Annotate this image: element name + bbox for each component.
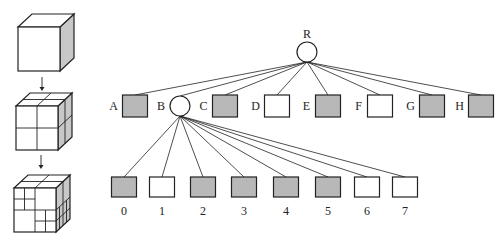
node-label: A	[109, 99, 118, 113]
leaf-label: 7	[402, 204, 408, 218]
octree-diagram: RABCDEFGH01234567	[0, 0, 501, 240]
edge-B-2	[180, 116, 203, 177]
leaf-3: 3	[232, 177, 257, 218]
leaf-label: 3	[241, 204, 247, 218]
filled-leaf-box	[274, 177, 299, 197]
cube-front-face	[18, 27, 60, 71]
edge-B-7	[180, 116, 405, 177]
cube-level-2	[14, 175, 70, 232]
leaf-5: 5	[316, 177, 341, 218]
leaf-label: 6	[364, 204, 370, 218]
filled-leaf-box	[316, 177, 341, 197]
leaf-6: 6	[355, 177, 380, 218]
filled-leaf-box	[123, 95, 148, 117]
arrow-head	[39, 165, 44, 169]
node-D: D	[251, 95, 289, 117]
internal-node-circle	[170, 96, 190, 116]
root-label: R	[303, 27, 311, 41]
node-label: B	[157, 99, 165, 113]
root-circle	[297, 42, 317, 62]
node-label: E	[303, 99, 310, 113]
leaf-2: 2	[191, 177, 216, 218]
leaf-0: 0	[112, 177, 137, 218]
cube-illustrations	[14, 14, 74, 232]
filled-leaf-box	[316, 95, 341, 117]
edge-B-0	[124, 116, 180, 177]
filled-leaf-box	[232, 177, 257, 197]
tree-nodes: RABCDEFGH01234567	[109, 27, 493, 218]
leaf-label: 0	[121, 204, 127, 218]
node-label: G	[406, 99, 415, 113]
edge-R-H	[307, 62, 481, 95]
empty-leaf-box	[355, 177, 380, 197]
edge-B-5	[180, 116, 328, 177]
edge-R-B	[180, 62, 307, 96]
node-label: D	[251, 99, 260, 113]
node-label: H	[455, 99, 464, 113]
root-node: R	[297, 27, 317, 62]
node-F: F	[355, 95, 392, 117]
filled-leaf-box	[469, 95, 494, 117]
edge-B-6	[180, 116, 367, 177]
edge-R-C	[225, 62, 307, 95]
cube-level-0	[18, 14, 74, 71]
edge-B-1	[162, 116, 180, 177]
edge-B-3	[180, 116, 244, 177]
leaf-7: 7	[393, 177, 418, 218]
empty-leaf-box	[150, 177, 175, 197]
leaf-1: 1	[150, 177, 175, 218]
leaf-label: 1	[159, 204, 165, 218]
node-E: E	[303, 95, 341, 117]
down-arrow-icon	[39, 155, 44, 169]
leaf-label: 5	[325, 204, 331, 218]
empty-leaf-box	[393, 177, 418, 197]
empty-leaf-box	[265, 95, 290, 117]
filled-leaf-box	[191, 177, 216, 197]
node-G: G	[406, 95, 444, 117]
node-H: H	[455, 95, 493, 117]
edge-B-4	[180, 116, 286, 177]
tree-edges	[124, 62, 481, 177]
leaf-label: 4	[283, 204, 289, 218]
arrow-head	[40, 87, 45, 91]
filled-leaf-box	[213, 95, 238, 117]
node-label: C	[199, 99, 207, 113]
node-C: C	[199, 95, 237, 117]
diagram-canvas: RABCDEFGH01234567	[0, 0, 501, 240]
leaf-4: 4	[274, 177, 299, 218]
down-arrow-icon	[40, 77, 45, 91]
node-label: F	[355, 99, 362, 113]
filled-leaf-box	[112, 177, 137, 197]
cube-level-1	[16, 93, 72, 150]
node-B: B	[157, 96, 190, 116]
empty-leaf-box	[368, 95, 393, 117]
filled-leaf-box	[420, 95, 445, 117]
node-A: A	[109, 95, 147, 117]
leaf-label: 2	[200, 204, 206, 218]
